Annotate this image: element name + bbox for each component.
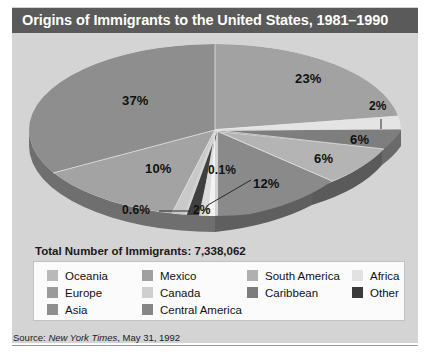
legend-label-mexico: Mexico <box>160 270 196 282</box>
source-publication: New York Times <box>48 332 117 343</box>
slice-label-canada: 0.6% <box>122 203 150 217</box>
legend-item-central-america[interactable]: Central America <box>142 301 242 318</box>
legend-swatch-caribbean <box>247 287 258 298</box>
slice-label-oceania: 0.1% <box>208 163 236 177</box>
legend-swatch-canada <box>142 287 153 298</box>
legend-label-africa: Africa <box>370 270 399 282</box>
slice-label-central-america: 12% <box>253 176 280 191</box>
slice-label-mexico: 23% <box>295 71 322 86</box>
source-citation: Source: New York Times, May 31, 1992 <box>13 332 180 343</box>
legend-item-caribbean[interactable]: Caribbean <box>247 284 340 301</box>
legend-item-other[interactable]: Other <box>352 284 399 301</box>
legend-item-mexico[interactable]: Mexico <box>142 267 242 284</box>
legend-item-oceania[interactable]: Oceania <box>47 267 108 284</box>
legend-item-asia[interactable]: Asia <box>47 301 108 318</box>
legend-swatch-africa <box>352 270 363 281</box>
legend-label-asia: Asia <box>65 304 87 316</box>
source-date: , May 31, 1992 <box>117 332 180 343</box>
legend-label-other: Other <box>370 287 399 299</box>
legend-swatch-mexico <box>142 270 153 281</box>
bottom-divider <box>12 345 418 346</box>
legend-label-central-america: Central America <box>160 304 242 316</box>
legend-swatch-central-america <box>142 304 153 315</box>
slice-label-africa: 2% <box>369 99 387 113</box>
source-prefix: Source: <box>13 332 48 343</box>
legend-label-canada: Canada <box>160 287 200 299</box>
slice-mexico <box>215 44 398 129</box>
slice-label-other: 2% <box>193 203 211 217</box>
chart-legend: Oceania Europe Asia Mexico Canada <box>33 261 405 321</box>
legend-label-south-america: South America <box>265 270 340 282</box>
legend-item-africa[interactable]: Africa <box>352 267 399 284</box>
legend-item-europe[interactable]: Europe <box>47 284 108 301</box>
legend-swatch-other <box>352 287 363 298</box>
legend-label-caribbean: Caribbean <box>265 287 318 299</box>
page-title: Origins of Immigrants to the United Stat… <box>22 12 388 28</box>
slice-label-caribbean: 6% <box>350 132 369 147</box>
slice-label-asia: 37% <box>122 93 149 108</box>
pie-chart-plot: 37% 23% 2% 6% 6% 12% 0.1% 2% 0.6% 10% <box>12 33 418 240</box>
legend-label-europe: Europe <box>65 287 102 299</box>
legend-swatch-oceania <box>47 270 58 281</box>
legend-item-canada[interactable]: Canada <box>142 284 242 301</box>
total-immigrants-label: Total Number of Immigrants: 7,338,062 <box>35 245 246 257</box>
legend-item-south-america[interactable]: South America <box>247 267 340 284</box>
legend-swatch-asia <box>47 304 58 315</box>
legend-swatch-south-america <box>247 270 258 281</box>
legend-column-1: Oceania Europe Asia <box>47 267 108 318</box>
legend-column-3: South America Caribbean <box>247 267 340 301</box>
chart-figure: Origins of Immigrants to the United Stat… <box>0 0 441 355</box>
legend-column-2: Mexico Canada Central America <box>142 267 242 318</box>
slice-label-europe: 10% <box>145 161 172 176</box>
slice-label-south-america: 6% <box>314 151 333 166</box>
chart-title-bar: Origins of Immigrants to the United Stat… <box>12 8 418 33</box>
legend-swatch-europe <box>47 287 58 298</box>
legend-column-4: Africa Other <box>352 267 399 301</box>
legend-label-oceania: Oceania <box>65 270 108 282</box>
